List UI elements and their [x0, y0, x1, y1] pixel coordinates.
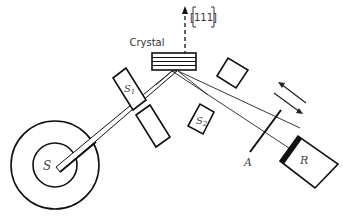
absorber-label: A — [243, 156, 252, 169]
crystal-label: Crystal — [129, 37, 164, 48]
source-housing — [11, 121, 99, 209]
movement-arrows — [274, 82, 306, 114]
source-label: S — [43, 159, 51, 173]
diffraction-diagram: [111] Crystal S S1 S2 A — [0, 0, 351, 216]
receiver-label: R — [299, 154, 308, 167]
absorber — [250, 110, 281, 152]
direction-arrow — [182, 6, 188, 55]
crystal — [152, 53, 196, 70]
direction-label: [111] — [190, 12, 217, 23]
receiver — [280, 136, 338, 188]
